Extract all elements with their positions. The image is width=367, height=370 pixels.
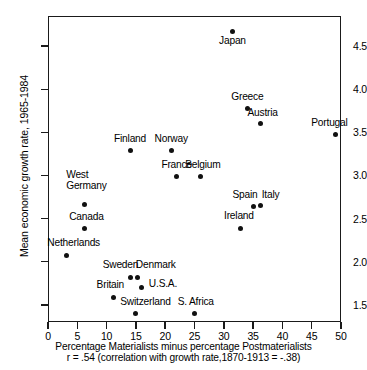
- x-tick-mark: [164, 322, 166, 329]
- x-tick-mark: [194, 322, 196, 329]
- data-point-label: Japan: [219, 36, 246, 47]
- data-point-label: Portugal: [311, 118, 347, 129]
- y-tick-mark: [41, 175, 49, 177]
- data-point-label: Ireland: [224, 211, 254, 222]
- data-point: [128, 275, 133, 280]
- data-point: [192, 311, 197, 316]
- data-point-label: Sweden: [103, 260, 139, 271]
- data-point-label: Denmark: [136, 260, 176, 271]
- y-tick-mark: [41, 45, 49, 47]
- x-tick-mark: [135, 322, 137, 329]
- data-point-label: Switzerland: [120, 297, 170, 308]
- data-point: [128, 148, 133, 153]
- data-point-label: U.S.A.: [149, 279, 177, 290]
- y-tick-label: 4.0: [331, 84, 367, 94]
- data-point-label: Netherlands: [47, 238, 100, 249]
- scatter-plot-figure: 1.52.02.53.03.54.04.5 051015202530354045…: [0, 0, 367, 370]
- data-point-label: Spain: [232, 190, 257, 201]
- data-point-label: Finland: [114, 134, 146, 145]
- x-tick-mark: [311, 322, 313, 329]
- x-tick-mark: [106, 322, 108, 329]
- data-point: [135, 275, 140, 280]
- x-tick-mark: [223, 322, 225, 329]
- data-point-label: Britain: [97, 280, 124, 291]
- data-point-label: Belgium: [185, 160, 220, 171]
- y-tick-label: 2.0: [331, 257, 367, 267]
- data-point-label: Austria: [247, 108, 277, 119]
- x-axis-title: Percentage Materialists minus percentage…: [0, 341, 367, 352]
- x-tick-mark: [252, 322, 254, 329]
- data-point: [169, 148, 174, 153]
- data-point: [64, 253, 69, 258]
- x-tick-mark: [282, 322, 284, 329]
- correlation-annotation: r = .54 (correlation with growth rate,18…: [0, 352, 367, 363]
- y-axis-title: Mean economic growth rate, 1965-1984: [18, 46, 30, 286]
- data-point-label: Norway: [155, 134, 188, 145]
- y-tick-label: 4.5: [331, 41, 367, 51]
- data-point-label: Canada: [69, 212, 104, 223]
- y-tick-label: 1.5: [331, 300, 367, 310]
- y-tick-mark: [41, 304, 49, 306]
- data-point: [198, 174, 203, 179]
- y-tick-mark: [41, 132, 49, 134]
- x-tick-mark: [77, 322, 79, 329]
- data-point-label: Greece: [231, 92, 263, 103]
- x-tick-mark: [340, 322, 342, 329]
- y-tick-mark: [41, 261, 49, 263]
- data-point-label: West Germany: [66, 170, 107, 191]
- y-tick-label: 3.0: [331, 170, 367, 180]
- data-point-label: S. Africa: [178, 297, 214, 308]
- x-tick-mark: [47, 322, 49, 329]
- y-tick-mark: [41, 89, 49, 91]
- y-tick-mark: [41, 218, 49, 220]
- y-tick-label: 2.5: [331, 214, 367, 224]
- data-point-label: Italy: [262, 190, 280, 201]
